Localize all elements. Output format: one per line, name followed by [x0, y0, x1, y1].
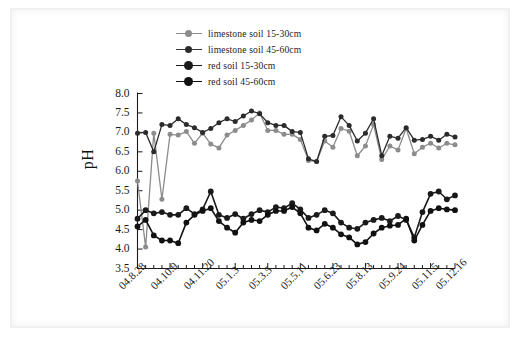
series-marker	[420, 145, 425, 150]
series-marker	[192, 212, 198, 218]
series-marker	[354, 226, 360, 232]
series-marker	[306, 156, 311, 161]
series-marker	[338, 231, 344, 237]
series-marker	[330, 145, 335, 150]
series-marker	[453, 135, 458, 140]
series-marker	[371, 217, 377, 223]
series-marker	[183, 220, 189, 226]
series-marker	[306, 215, 312, 221]
series-marker	[143, 130, 148, 135]
series-marker	[192, 141, 197, 146]
series-marker	[428, 208, 434, 214]
series-marker	[282, 132, 287, 137]
series-marker	[151, 131, 156, 136]
series-marker	[233, 119, 238, 124]
series-marker	[322, 207, 328, 213]
series-marker	[167, 238, 173, 244]
series-marker	[452, 192, 458, 198]
series-marker	[436, 189, 442, 195]
series-marker	[159, 197, 164, 202]
series-marker	[143, 217, 149, 223]
series-marker	[436, 205, 442, 211]
series-marker	[249, 211, 255, 217]
series-marker	[428, 134, 433, 139]
series-marker	[224, 215, 230, 221]
series-marker	[453, 142, 458, 147]
series-line	[138, 192, 456, 238]
series-marker	[176, 116, 181, 121]
series-marker	[314, 159, 319, 164]
series-marker	[183, 205, 189, 211]
series-marker	[420, 209, 426, 215]
series-marker	[241, 123, 246, 128]
series-marker	[363, 144, 368, 149]
series-marker	[298, 130, 303, 135]
series-marker	[322, 221, 328, 227]
series-marker	[379, 215, 385, 221]
plot-area	[0, 0, 526, 341]
series-marker	[135, 131, 140, 136]
series-marker	[355, 153, 360, 158]
series-marker	[257, 207, 263, 213]
series-marker	[354, 241, 360, 247]
series-marker	[404, 125, 409, 130]
series-marker	[184, 122, 189, 127]
series-marker	[297, 210, 303, 216]
series-marker	[225, 133, 230, 138]
series-marker	[282, 123, 287, 128]
series-marker	[346, 225, 352, 231]
series-marker	[249, 117, 254, 122]
series-marker	[371, 231, 377, 237]
series-marker	[241, 114, 246, 119]
series-marker	[379, 153, 384, 158]
series-marker	[168, 132, 173, 137]
series-marker	[347, 123, 352, 128]
series-marker	[339, 114, 344, 119]
series-marker	[216, 218, 222, 224]
series-marker	[436, 138, 441, 143]
series-marker	[257, 111, 262, 116]
series-marker	[273, 208, 279, 214]
series-marker	[396, 147, 401, 152]
series-marker	[168, 123, 173, 128]
series-marker	[159, 238, 165, 244]
series-marker	[216, 145, 221, 150]
series-marker	[224, 225, 230, 231]
ph-line-chart: limestone soil 15-30cm limestone soil 45…	[0, 0, 526, 341]
series-marker	[167, 212, 173, 218]
series-marker	[322, 134, 327, 139]
series-marker	[135, 216, 141, 222]
series-marker	[371, 116, 376, 121]
series-marker	[412, 151, 417, 156]
series-marker	[289, 204, 295, 210]
series-marker	[233, 128, 238, 133]
series-marker	[143, 245, 148, 250]
series-marker	[208, 126, 213, 131]
series-marker	[232, 230, 238, 236]
series-marker	[184, 129, 189, 134]
series-marker	[330, 133, 335, 138]
series-marker	[363, 220, 369, 226]
series-marker	[387, 134, 392, 139]
series-marker	[135, 224, 141, 230]
series-marker	[444, 196, 450, 202]
series-marker	[175, 240, 181, 246]
series-marker	[420, 222, 426, 228]
series-marker	[265, 120, 270, 125]
series-marker	[444, 141, 449, 146]
series-marker	[339, 126, 344, 131]
series-marker	[208, 142, 213, 147]
series-marker	[281, 208, 287, 214]
series-marker	[135, 179, 140, 184]
series-marker	[151, 233, 157, 239]
series-marker	[436, 145, 441, 150]
series-marker	[249, 217, 255, 223]
series-marker	[175, 212, 181, 218]
series-marker	[338, 220, 344, 226]
series-marker	[395, 213, 401, 219]
series-marker	[208, 189, 214, 195]
series-marker	[273, 123, 278, 128]
series-marker	[143, 207, 149, 213]
series-marker	[232, 211, 238, 217]
series-marker	[452, 207, 458, 213]
